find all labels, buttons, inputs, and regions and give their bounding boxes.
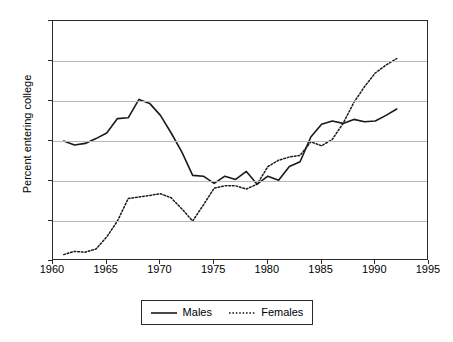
y-tick-mark-65 <box>48 60 52 61</box>
x-tick-label-1995: 1995 <box>398 264 453 275</box>
legend-entry-males: Males <box>151 307 212 318</box>
y-tick-mark-50 <box>48 180 52 181</box>
legend-entry-females: Females <box>229 307 303 318</box>
gridline-y-50 <box>53 181 427 182</box>
y-tick-mark-60 <box>48 100 52 101</box>
x-tick-label-1960: 1960 <box>22 264 82 275</box>
plot-area <box>52 20 428 260</box>
x-tick-label-1965: 1965 <box>76 264 136 275</box>
y-tick-mark-70 <box>48 20 52 21</box>
legend-swatch-dotted <box>229 309 255 317</box>
gridline-y-55 <box>53 141 427 142</box>
legend-label-males: Males <box>183 307 212 318</box>
x-tick-label-1980: 1980 <box>237 264 297 275</box>
legend-swatch-solid <box>151 309 177 317</box>
x-tick-label-1990: 1990 <box>344 264 404 275</box>
x-tick-label-1985: 1985 <box>291 264 351 275</box>
legend-label-females: Females <box>261 307 303 318</box>
line-chart: Percent entering college 706560555045401… <box>0 0 453 342</box>
y-tick-mark-45 <box>48 220 52 221</box>
y-axis-title: Percent entering college <box>21 34 33 234</box>
series-line-females <box>64 59 397 255</box>
x-tick-label-1975: 1975 <box>183 264 243 275</box>
gridline-y-45 <box>53 221 427 222</box>
chart-legend: Males Females <box>141 300 313 325</box>
gridline-y-60 <box>53 101 427 102</box>
gridline-y-65 <box>53 61 427 62</box>
y-tick-mark-55 <box>48 140 52 141</box>
x-tick-label-1970: 1970 <box>129 264 189 275</box>
